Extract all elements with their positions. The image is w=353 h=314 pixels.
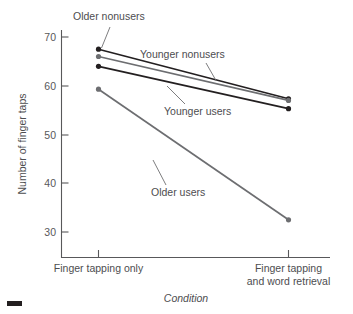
x-tick-label-cat2-line1: Finger tapping [255,262,322,274]
data-point-younger-nonusers-cat1 [96,54,101,59]
data-point-older-users-cat2 [286,217,291,222]
series-label-younger-users: Younger users [164,105,231,117]
data-point-older-nonusers-cat1 [96,47,101,52]
y-tick-labels-group: 70 60 50 40 30 [44,31,56,238]
y-tick-label-60: 60 [44,80,56,92]
figure-corner-mark [7,301,22,306]
y-tick-label-40: 40 [44,177,56,189]
data-point-younger-nonusers-cat2 [286,98,291,103]
x-tick-label-cat2-line2: and word retrieval [247,275,330,287]
x-axis-title: Condition [164,292,209,304]
leader-line-older-nonusers [102,27,111,48]
chart-figure: 70 60 50 40 30 Finger tapping only Finge… [0,0,353,314]
y-ticks-group [62,37,69,232]
x-tick-labels-group: Finger tapping only Finger tapping and w… [54,262,330,287]
axes-group [62,30,331,258]
series-younger-nonusers [96,54,291,103]
data-point-younger-users-cat2 [286,106,291,111]
y-tick-label-50: 50 [44,129,56,141]
series-line-younger-users [99,66,289,108]
series-label-older-nonusers: Older nonusers [73,10,145,22]
data-point-younger-users-cat1 [96,64,101,69]
leader-line-younger-users [167,86,185,104]
series-label-older-users: Older users [151,186,205,198]
y-axis-title: Number of finger taps [16,94,28,195]
annotation-labels-group: Older nonusers Younger nonusers Younger … [73,10,231,198]
y-tick-label-30: 30 [44,226,56,238]
line-chart-canvas: 70 60 50 40 30 Finger tapping only Finge… [0,0,353,314]
x-tick-label-cat1: Finger tapping only [54,262,144,274]
x-ticks-group [99,250,289,258]
y-tick-label-70: 70 [44,31,56,43]
leader-line-older-users [153,160,166,185]
series-line-younger-nonusers [99,57,289,101]
series-label-younger-nonusers: Younger nonusers [140,48,225,60]
data-point-older-users-cat1 [96,87,101,92]
